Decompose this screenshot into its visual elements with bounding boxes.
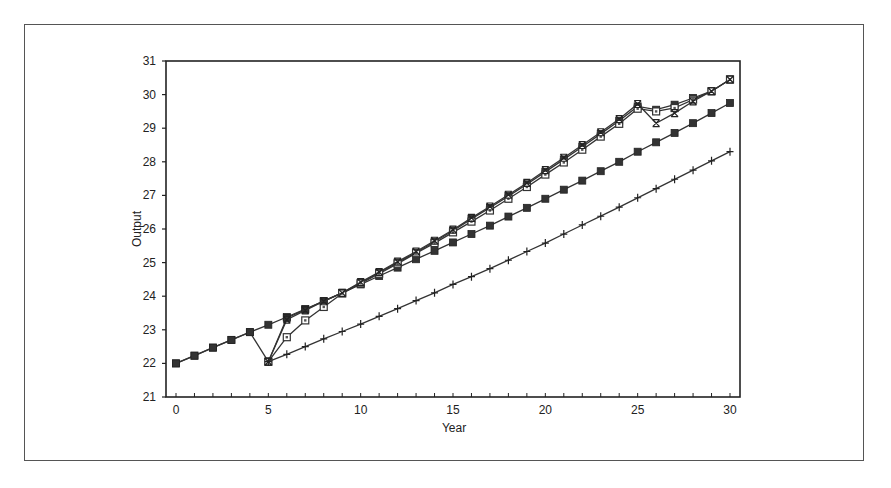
y-axis: 2122232425262728293031 [143, 54, 166, 404]
y-tick-label: 24 [143, 289, 157, 303]
y-tick-label: 26 [143, 222, 157, 236]
x-tick-label: 20 [539, 403, 553, 417]
y-tick-label: 27 [143, 188, 157, 202]
y-axis-title: Output [130, 210, 144, 247]
x-axis-title: Year [442, 421, 466, 435]
y-tick-label: 21 [143, 390, 157, 404]
x-tick-label: 0 [173, 403, 180, 417]
line-chart: 2122232425262728293031 051015202530 Year… [0, 0, 891, 488]
x-tick-label: 10 [354, 403, 368, 417]
x-tick-label: 30 [723, 403, 737, 417]
y-tick-label: 30 [143, 88, 157, 102]
data-series [173, 76, 734, 367]
y-tick-label: 23 [143, 323, 157, 337]
y-tick-label: 28 [143, 155, 157, 169]
y-tick-label: 29 [143, 121, 157, 135]
x-tick-label: 5 [265, 403, 272, 417]
series-line [265, 148, 734, 366]
series-line [173, 76, 734, 367]
y-tick-label: 25 [143, 256, 157, 270]
x-tick-label: 15 [446, 403, 460, 417]
y-tick-label: 31 [143, 54, 157, 68]
x-tick-label: 25 [631, 403, 645, 417]
y-tick-label: 22 [143, 356, 157, 370]
